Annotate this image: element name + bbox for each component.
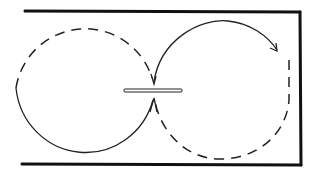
right-loop-solid-arc xyxy=(154,21,277,82)
frame-top-line xyxy=(25,11,300,12)
frame-bottom-line xyxy=(22,164,301,165)
diagram-canvas: figure-eight path through slit xyxy=(0,0,309,175)
right-loop-dashed-arc xyxy=(155,60,289,159)
center-slit xyxy=(124,89,182,92)
left-loop-solid-arc xyxy=(16,88,153,152)
figure-eight-diagram xyxy=(0,0,309,175)
frame xyxy=(22,11,301,165)
left-loop-dashed-arc xyxy=(16,29,152,88)
frame-right-line xyxy=(300,12,301,165)
